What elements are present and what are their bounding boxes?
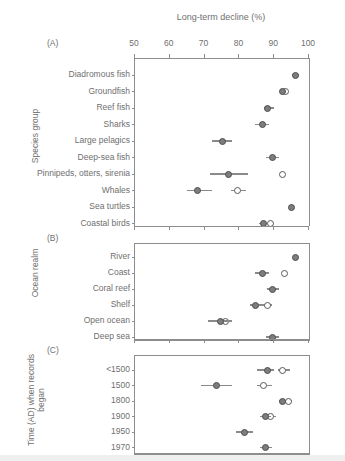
x-axis-between-a-and-b (134, 226, 308, 227)
category-axis-tick (132, 190, 135, 191)
x-axis-tick-label: 80 (234, 38, 243, 48)
axis-title: Long-term decline (%) (134, 12, 308, 22)
category-axis-tick (132, 432, 135, 433)
data-point-open (260, 382, 267, 389)
category-axis-tick (132, 337, 135, 338)
panel-a-plot: Diadromous fishGroundfishReef fishSharks… (134, 58, 310, 226)
category-label: Coastal birds (80, 218, 130, 228)
x-axis-between-b-and-c (134, 339, 308, 340)
data-point-filled (241, 429, 248, 436)
category-axis-tick (132, 75, 135, 76)
category-label: <1500 (106, 364, 130, 374)
panel-c-plot: <150015001800190019501970 (134, 355, 310, 455)
category-label: Shelf (111, 299, 130, 309)
data-point-filled (262, 413, 269, 420)
data-point-open (279, 171, 286, 178)
category-axis-tick (132, 370, 135, 371)
group-axis-label-time-records-began: Time (AD) when records began (26, 345, 46, 455)
category-axis-tick (132, 273, 135, 274)
data-point-filled (225, 171, 232, 178)
group-axis-label-ocean-realm: Ocean realm (30, 228, 40, 318)
data-point-filled (217, 318, 224, 325)
category-label: Whales (102, 185, 130, 195)
data-point-filled (264, 367, 271, 374)
data-point-filled (259, 121, 266, 128)
category-axis-tick (132, 401, 135, 402)
data-point-filled (279, 398, 286, 405)
x-axis-tick (238, 226, 239, 230)
data-point-filled (194, 187, 201, 194)
category-label: 1970 (111, 442, 130, 452)
panel-letter-c: (C) (47, 345, 59, 355)
data-point-filled (252, 302, 259, 309)
data-point-filled (264, 105, 271, 112)
category-axis-tick (132, 321, 135, 322)
category-label: Deep sea (94, 331, 130, 341)
x-axis-tick-label: 50 (129, 38, 138, 48)
data-point-filled (259, 270, 266, 277)
x-axis-tick-label: 60 (164, 38, 173, 48)
data-point-filled (262, 444, 269, 451)
category-axis-tick (132, 91, 135, 92)
data-point-open (234, 187, 241, 194)
x-axis-tick-label: 90 (268, 38, 277, 48)
category-axis-tick (132, 416, 135, 417)
category-label: 1900 (111, 411, 130, 421)
x-axis-tick (169, 226, 170, 230)
category-axis-tick (132, 289, 135, 290)
category-label: 1800 (111, 395, 130, 405)
category-axis-tick (132, 141, 135, 142)
x-axis-tick (308, 339, 309, 343)
data-point-filled (292, 254, 299, 261)
data-point-filled (219, 138, 226, 145)
category-label: Reef fish (96, 102, 130, 112)
x-axis-tick (273, 339, 274, 343)
category-label: Groundfish (88, 86, 130, 96)
category-axis-tick (132, 157, 135, 158)
x-axis-tick (204, 339, 205, 343)
data-point-filled (269, 286, 276, 293)
data-point-filled (288, 204, 295, 211)
x-axis-tick (134, 226, 135, 230)
data-point-open (281, 270, 288, 277)
panel-b-plot: RiverCoastCoral reefShelfOpen oceanDeep … (134, 243, 310, 341)
category-axis-tick (132, 174, 135, 175)
category-axis-tick (132, 223, 135, 224)
data-point-open (264, 302, 271, 309)
x-axis-tick (308, 226, 309, 230)
category-axis-tick (132, 447, 135, 448)
data-point-filled (269, 154, 276, 161)
x-axis-bottom (134, 453, 308, 454)
x-axis-tick (169, 339, 170, 343)
footer-strip (0, 455, 345, 461)
category-label: Deep-sea fish (78, 152, 130, 162)
category-label: River (110, 251, 130, 261)
figure-root: Long-term decline (%) (A) (B) (C) Specie… (0, 0, 345, 461)
category-label: Open ocean (84, 315, 130, 325)
category-label: Pinnipeds, otters, sirenia (37, 168, 130, 178)
category-label: Sharks (104, 119, 130, 129)
category-axis-tick (132, 108, 135, 109)
category-axis-tick (132, 385, 135, 386)
x-axis-tick (134, 339, 135, 343)
data-point-filled (292, 72, 299, 79)
category-axis-tick (132, 257, 135, 258)
panel-letter-b: (B) (47, 233, 58, 243)
x-axis-tick-label: 70 (199, 38, 208, 48)
category-axis-tick (132, 207, 135, 208)
panel-letter-a: (A) (47, 38, 58, 48)
category-label: Sea turtles (89, 201, 130, 211)
x-axis-tick (238, 339, 239, 343)
x-axis-tick (204, 226, 205, 230)
category-axis-tick (132, 305, 135, 306)
group-axis-label-species-group: Species group (30, 76, 40, 196)
category-label: Large pelagics (75, 135, 130, 145)
data-point-open (279, 367, 286, 374)
x-axis-tick (273, 226, 274, 230)
x-axis-tick-label: 100 (301, 38, 315, 48)
category-label: Diadromous fish (69, 69, 130, 79)
category-label: 1950 (111, 426, 130, 436)
category-axis-tick (132, 124, 135, 125)
category-label: Coral reef (93, 283, 130, 293)
category-label: 1500 (111, 380, 130, 390)
